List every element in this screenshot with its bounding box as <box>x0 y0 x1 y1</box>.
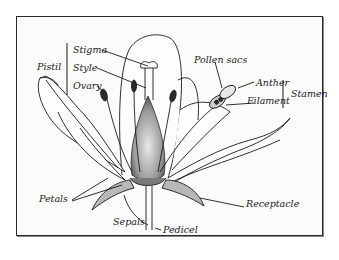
label-filament: Filament <box>247 96 290 106</box>
stigma <box>141 62 158 68</box>
sepal-right <box>162 180 204 206</box>
label-ovary: Ovary <box>73 81 102 91</box>
label-sepals: Sepals <box>113 217 145 227</box>
petal-left-lower <box>58 112 125 180</box>
label-stigma: Stigma <box>73 45 107 55</box>
label-petals: Petals <box>39 194 68 204</box>
label-pedicel: Pedicel <box>163 225 198 235</box>
label-style: Style <box>73 63 97 73</box>
flower-illustration <box>0 0 339 260</box>
label-stamen: Stamen <box>291 89 328 99</box>
label-receptacle: Receptacle <box>246 199 299 209</box>
receptacle <box>130 178 166 186</box>
label-pollen-sacs: Pollen sacs <box>194 55 247 65</box>
label-anther: Anther <box>256 78 289 88</box>
label-pistil: Pistil <box>37 62 61 72</box>
pedicel <box>146 186 152 230</box>
